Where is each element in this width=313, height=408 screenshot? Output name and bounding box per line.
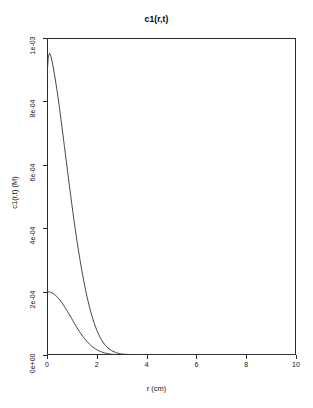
x-tick <box>296 355 297 359</box>
x-tick-label: 4 <box>132 361 162 368</box>
y-tick-label: 2e-04 <box>29 290 36 330</box>
y-tick-label: 6e-04 <box>29 163 36 203</box>
y-tick-label: 4e-04 <box>29 227 36 267</box>
x-tick-label: 10 <box>281 361 311 368</box>
y-tick <box>43 38 47 39</box>
plot-canvas <box>47 38 296 355</box>
x-tick <box>147 355 148 359</box>
x-tick <box>97 355 98 359</box>
plot-figure: c1(r,t) 0246810 0e+002e-044e-046e-048e-0… <box>0 0 313 408</box>
x-tick <box>47 355 48 359</box>
y-tick <box>43 165 47 166</box>
y-tick <box>43 101 47 102</box>
y-tick <box>43 228 47 229</box>
x-tick-label: 0 <box>32 361 62 368</box>
x-tick-label: 8 <box>231 361 261 368</box>
x-tick <box>246 355 247 359</box>
y-tick <box>43 292 47 293</box>
y-axis-title: c1(r,t) (M) <box>10 153 19 233</box>
y-tick-label: 1e-03 <box>29 37 36 77</box>
series-curve-early <box>47 53 296 355</box>
x-tick <box>196 355 197 359</box>
y-tick <box>43 355 47 356</box>
x-tick-label: 6 <box>181 361 211 368</box>
x-tick-label: 2 <box>82 361 112 368</box>
y-tick-label: 8e-04 <box>29 100 36 140</box>
x-axis-title: r (cm) <box>0 384 313 393</box>
page-title: c1(r,t) <box>0 14 313 24</box>
series-curve-late <box>47 292 296 355</box>
